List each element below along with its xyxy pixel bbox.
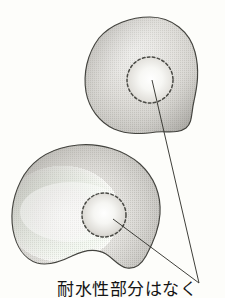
illustration-canvas: [0, 0, 225, 298]
figure-page: 耐水性部分はなく: [0, 0, 225, 298]
